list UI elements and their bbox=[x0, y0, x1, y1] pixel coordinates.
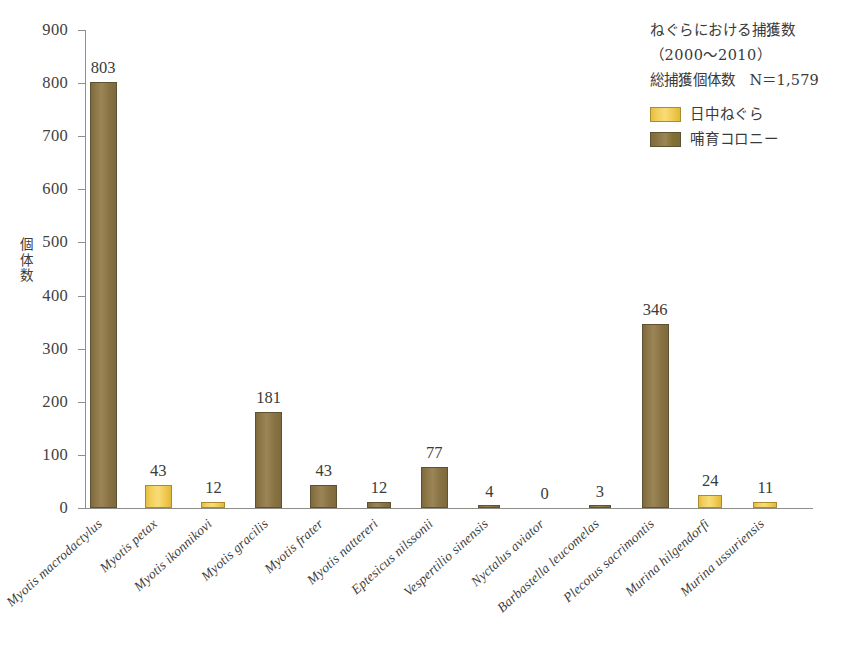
bar-myotis-macrodactylus bbox=[90, 82, 117, 508]
bar-murina-ussuriensis bbox=[753, 502, 777, 508]
bar-murina-hilgendorfi bbox=[698, 495, 722, 508]
x-axis-label: Plecotus sacrimontis bbox=[560, 516, 658, 606]
annotation-line-2: （2000〜2010） bbox=[650, 43, 860, 68]
chart-annotation-block: ねぐらにおける捕獲数 （2000〜2010） 総捕獲個体数 N＝1,579 日中… bbox=[650, 18, 860, 152]
legend-item-day-roost: 日中ねぐら bbox=[650, 102, 860, 127]
bar-value-label: 24 bbox=[680, 473, 740, 490]
y-tick-label: 300 bbox=[42, 341, 68, 358]
y-tick-label: 400 bbox=[42, 288, 68, 305]
legend-swatch-day-roost bbox=[650, 107, 681, 122]
x-axis-line bbox=[85, 508, 813, 509]
bar-value-label: 803 bbox=[73, 60, 133, 77]
x-axis-label: Myotis macrodactylus bbox=[4, 516, 106, 610]
bar-value-label: 4 bbox=[459, 484, 519, 501]
legend-label-day-roost: 日中ねぐら bbox=[690, 107, 764, 122]
bar-myotis-gracilis bbox=[255, 412, 282, 508]
bar-value-label: 43 bbox=[294, 463, 354, 480]
bar-value-label: 3 bbox=[570, 484, 630, 501]
bar-myotis-ikonnikovi bbox=[201, 502, 225, 508]
y-tick-label: 900 bbox=[42, 22, 68, 39]
annotation-line-3: 総捕獲個体数 N＝1,579 bbox=[650, 68, 860, 93]
bar-value-label: 77 bbox=[404, 445, 464, 462]
bar-value-label: 11 bbox=[735, 480, 795, 497]
bar-value-label: 12 bbox=[349, 480, 409, 497]
y-axis-title: 個体数 bbox=[16, 200, 36, 320]
y-axis-title-label: 個体数 bbox=[16, 237, 36, 284]
bar-vespertilio-sinensis bbox=[478, 505, 500, 508]
y-tick-label: 200 bbox=[42, 394, 68, 411]
y-tick-label: 0 bbox=[59, 500, 68, 517]
bar-eptesicus-nilssonii bbox=[421, 467, 448, 508]
bar-myotis-frater bbox=[310, 485, 337, 508]
legend-swatch-nursery-colony bbox=[650, 132, 681, 147]
bar-value-label: 43 bbox=[128, 463, 188, 480]
y-tick-label: 100 bbox=[42, 447, 68, 464]
legend-label-nursery-colony: 哺育コロニー bbox=[690, 132, 779, 147]
x-axis-label: Barbastella leucomelas bbox=[494, 516, 602, 616]
annotation-line-1: ねぐらにおける捕獲数 bbox=[650, 18, 860, 43]
y-tick-label: 800 bbox=[42, 75, 68, 92]
bar-myotis-nattereri bbox=[367, 502, 391, 508]
y-tick-label: 700 bbox=[42, 128, 68, 145]
bar-plecotus-sacrimontis bbox=[642, 324, 669, 508]
legend-item-nursery-colony: 哺育コロニー bbox=[650, 127, 860, 152]
bar-value-label: 346 bbox=[625, 302, 685, 319]
bar-myotis-petax bbox=[145, 485, 172, 508]
chart-legend: 日中ねぐら哺育コロニー bbox=[650, 102, 860, 152]
bar-value-label: 181 bbox=[239, 390, 299, 407]
y-tick-label: 500 bbox=[42, 234, 68, 251]
bar-barbastella-leucomelas bbox=[589, 505, 611, 508]
y-tick-label: 600 bbox=[42, 181, 68, 198]
y-tick-mark bbox=[78, 508, 86, 509]
bar-value-label: 12 bbox=[183, 480, 243, 497]
bar-value-label: 0 bbox=[515, 486, 575, 503]
bat-roost-capture-bar-chart: 個体数 9008007006005004003002001000 8034312… bbox=[0, 0, 862, 646]
